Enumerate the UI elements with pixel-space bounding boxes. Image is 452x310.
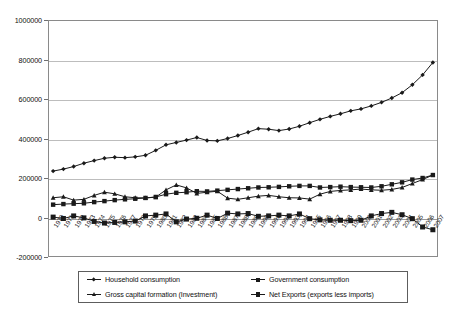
data-point (246, 186, 250, 190)
legend-item[interactable]: Net Exports (exports less imports) (243, 290, 407, 299)
data-point (318, 117, 322, 121)
legend-item[interactable]: Government consumption (243, 275, 407, 284)
data-point (164, 187, 169, 191)
data-point (236, 187, 240, 191)
data-point (246, 130, 250, 134)
legend-marker-square-icon (251, 276, 265, 284)
data-point (113, 155, 117, 159)
data-point (51, 169, 55, 173)
data-point (133, 155, 137, 159)
data-point (225, 188, 229, 192)
data-point (184, 190, 188, 194)
data-point (92, 200, 96, 204)
data-point (123, 155, 127, 159)
data-point (308, 184, 312, 188)
data-point (359, 107, 363, 111)
data-point (390, 182, 394, 186)
data-point (61, 202, 65, 206)
data-point (71, 164, 75, 168)
data-point (143, 153, 147, 157)
chart-legend: Household consumptionGovernment consumpt… (78, 271, 408, 303)
data-point (102, 156, 106, 160)
data-point (184, 138, 188, 142)
data-point (410, 177, 414, 181)
legend-label: Gross capital formation (Investment) (105, 290, 217, 299)
data-point (390, 96, 394, 100)
data-point (225, 136, 229, 140)
data-point (287, 184, 291, 188)
series-line (53, 175, 433, 200)
data-point (266, 127, 270, 131)
data-point (174, 140, 178, 144)
data-point (174, 191, 178, 195)
data-point (164, 143, 168, 147)
legend-item[interactable]: Household consumption (79, 275, 243, 284)
data-point (256, 185, 260, 189)
data-point (297, 184, 301, 188)
data-point (51, 202, 55, 206)
legend-item[interactable]: Gross capital formation (Investment) (79, 290, 243, 299)
legend-label: Household consumption (105, 275, 180, 284)
data-point (277, 185, 281, 189)
data-point (338, 112, 342, 116)
legend-label: Net Exports (exports less imports) (269, 290, 374, 299)
data-point (61, 167, 65, 171)
data-point (318, 185, 322, 189)
legend-marker-triangle-icon (87, 291, 101, 299)
data-point (154, 148, 158, 152)
data-point (349, 109, 353, 113)
data-point (236, 133, 240, 137)
x-axis: 1970197119721973197419751976197719781979… (48, 225, 438, 265)
legend-marker-filled-square-icon (251, 291, 265, 299)
legend-marker-diamond-icon (87, 276, 101, 284)
data-point (308, 121, 312, 125)
data-point (215, 139, 219, 143)
data-point (205, 138, 209, 142)
data-point (174, 183, 179, 187)
data-point (82, 161, 86, 165)
data-point (82, 201, 86, 205)
chart-root: 10000008000006000004000002000000-200000 … (0, 0, 452, 310)
data-point (266, 185, 270, 189)
data-point (113, 198, 117, 202)
data-point (328, 185, 332, 189)
series-3 (51, 173, 436, 203)
data-point (400, 180, 404, 184)
data-point (256, 126, 260, 130)
data-point (92, 158, 96, 162)
data-point (195, 135, 199, 139)
data-point (379, 100, 383, 104)
data-point (164, 192, 168, 196)
data-point (379, 184, 383, 188)
data-point (287, 127, 291, 131)
series-1 (51, 60, 435, 173)
data-point (369, 104, 373, 108)
data-point (277, 128, 281, 132)
data-point (297, 124, 301, 128)
legend-label: Government consumption (269, 275, 349, 284)
data-point (328, 114, 332, 118)
series-line (53, 62, 433, 171)
data-point (102, 199, 106, 203)
